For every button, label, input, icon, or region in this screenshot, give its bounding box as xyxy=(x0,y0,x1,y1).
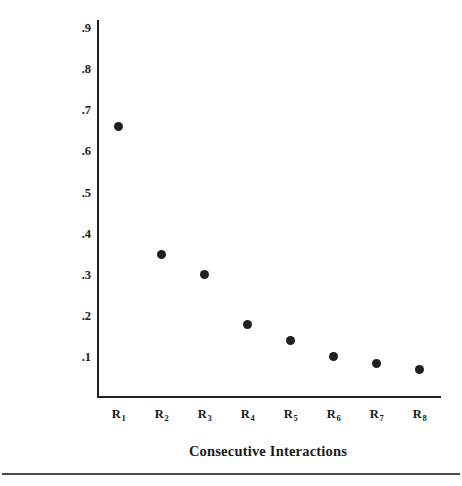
data-point xyxy=(329,352,338,361)
y-tick-label: .6 xyxy=(57,145,91,158)
y-tick-label: .3 xyxy=(57,269,91,282)
y-tick-label: .9 xyxy=(57,22,91,35)
y-tick-label: .8 xyxy=(57,63,91,76)
x-tick-label: R8 xyxy=(413,408,426,421)
x-axis-title: Consecutive Interactions xyxy=(0,443,462,460)
data-point xyxy=(157,250,166,259)
data-point xyxy=(114,122,123,131)
figure: Likelihood Mother Will Continue .9.8.7.6… xyxy=(0,0,462,486)
y-tick-label: .4 xyxy=(57,228,91,241)
x-axis-tick-labels: R1R2R3R4R5R6R7R8 xyxy=(97,408,441,430)
data-point xyxy=(243,320,252,329)
x-tick-label: R4 xyxy=(241,408,254,421)
x-tick-label: R7 xyxy=(370,408,383,421)
bottom-divider xyxy=(2,473,460,475)
y-tick-label: .1 xyxy=(57,351,91,364)
data-point xyxy=(200,270,209,279)
data-point xyxy=(286,336,295,345)
x-tick-label: R3 xyxy=(198,408,211,421)
x-tick-label: R5 xyxy=(284,408,297,421)
x-tick-label: R2 xyxy=(155,408,168,421)
y-tick-label: .2 xyxy=(57,310,91,323)
x-tick-label: R1 xyxy=(112,408,125,421)
plot-area xyxy=(97,20,441,398)
x-axis-line xyxy=(97,396,441,398)
y-tick-label: .7 xyxy=(57,104,91,117)
data-point xyxy=(415,365,424,374)
y-axis-line xyxy=(97,20,99,398)
x-tick-label: R6 xyxy=(327,408,340,421)
data-point xyxy=(372,359,381,368)
y-tick-label: .5 xyxy=(57,187,91,200)
y-axis-tick-labels: .9.8.7.6.5.4.3.2.1 xyxy=(55,0,91,486)
